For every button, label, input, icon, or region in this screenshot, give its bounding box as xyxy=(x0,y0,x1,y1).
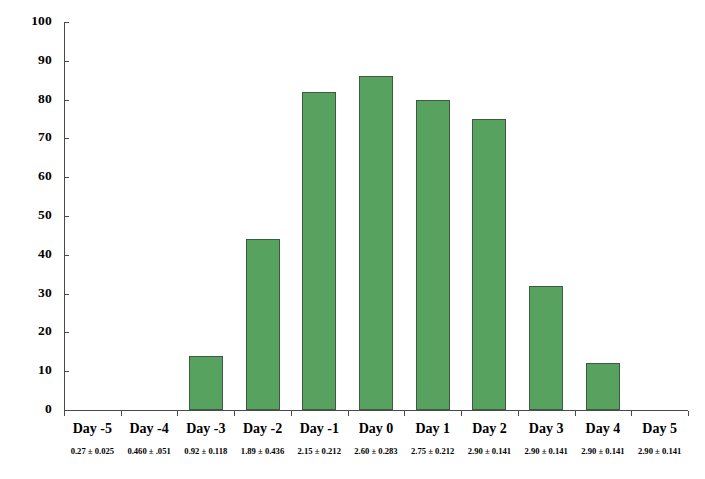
bar xyxy=(416,100,450,410)
bar xyxy=(472,119,506,410)
y-axis-tick-label: 10 xyxy=(38,362,52,378)
x-axis-tick-mark xyxy=(688,411,689,416)
x-axis-category-label: Day 3 xyxy=(518,421,575,437)
x-axis-category-label: Day -2 xyxy=(234,421,291,437)
x-axis-category-label: Day -4 xyxy=(121,421,178,437)
x-axis-category-label: Day 2 xyxy=(461,421,518,437)
y-axis-tick-label: 40 xyxy=(38,246,52,262)
bar-chart: 1009080706050403020100 Day -50.27 ± 0.02… xyxy=(0,0,705,479)
x-axis-category-label: Day -5 xyxy=(64,421,121,437)
y-axis-tick-label: 90 xyxy=(38,52,52,68)
bar xyxy=(529,286,563,410)
bar xyxy=(302,92,336,410)
x-axis-category-label: Day -1 xyxy=(291,421,348,437)
y-axis-tick-label: 100 xyxy=(31,13,52,29)
bar xyxy=(586,363,620,410)
bar xyxy=(246,239,280,410)
y-axis-tick-label: 60 xyxy=(38,168,52,184)
x-axis-category-labels: Day -50.27 ± 0.025Day -40.460 ± .051Day … xyxy=(64,410,688,479)
y-axis-tick-label: 20 xyxy=(38,323,52,339)
y-axis-tick-label: 0 xyxy=(45,401,52,417)
x-axis-category-label: Day 5 xyxy=(631,421,688,437)
y-axis-tick-label: 50 xyxy=(38,207,52,223)
bar xyxy=(189,356,223,410)
bars-layer xyxy=(64,22,688,410)
x-axis-category-label: Day 4 xyxy=(575,421,632,437)
y-axis-tick-label: 30 xyxy=(38,285,52,301)
y-axis-tick-label: 70 xyxy=(38,129,52,145)
y-axis-tick-label: 80 xyxy=(38,91,52,107)
bar xyxy=(359,76,393,410)
x-axis-category-label: Day 0 xyxy=(348,421,405,437)
x-axis-category-label: Day 1 xyxy=(404,421,461,437)
x-axis-category-annotation: 2.90 ± 0.141 xyxy=(623,446,696,456)
x-axis-category-label: Day -3 xyxy=(177,421,234,437)
